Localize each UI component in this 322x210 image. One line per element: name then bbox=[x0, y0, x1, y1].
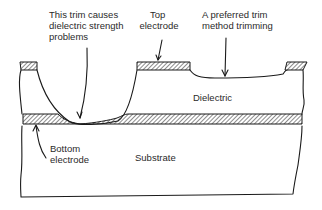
bottom-electrode-arrow bbox=[36, 126, 46, 158]
bad-trim-arrow bbox=[80, 48, 87, 118]
bad-trim-arrowhead-icon bbox=[77, 112, 82, 118]
top-electrode bbox=[137, 62, 190, 70]
right-electrode-pad bbox=[285, 62, 307, 70]
top-left-electrode-pad bbox=[20, 62, 37, 70]
dielectric-left-wall bbox=[19, 70, 22, 114]
preferred-trim-arrow bbox=[225, 38, 226, 76]
bad-trim-label: This trim causes dielectric strength pro… bbox=[49, 9, 126, 42]
bottom-electrode-label: Bottom electrode bbox=[50, 143, 89, 165]
preferred-trim-label: A preferred trim method trimming bbox=[202, 9, 273, 31]
dielectric-right-wall bbox=[302, 70, 304, 114]
trim-cross-section-diagram: This trim causes dielectric strength pro… bbox=[0, 0, 322, 210]
substrate-label: Substrate bbox=[135, 152, 176, 163]
top-electrode-label: Top electrode bbox=[139, 9, 178, 31]
preferred-trim-recess bbox=[190, 70, 287, 78]
dielectric-label: Dielectric bbox=[193, 92, 232, 103]
